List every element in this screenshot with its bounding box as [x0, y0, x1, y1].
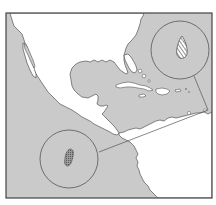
- bahamas-3: [148, 80, 150, 82]
- coastal-island: [187, 111, 190, 114]
- bahamas-2: [142, 74, 146, 78]
- lesser-antilles-2: [188, 91, 189, 92]
- bahamas-1: [138, 69, 142, 73]
- lesser-antilles-1: [185, 88, 187, 90]
- map: [0, 0, 216, 205]
